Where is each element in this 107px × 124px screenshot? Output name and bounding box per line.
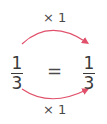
bottom-arrow [22,89,86,99]
equals-sign: = [47,60,62,81]
left-numerator: 1 [12,55,23,72]
top-multiply-label: × 1 [43,10,66,25]
right-denominator: 3 [84,75,95,92]
top-arrow [22,30,86,44]
right-fraction: 1 3 [83,55,95,92]
left-fraction: 1 3 [11,55,23,92]
bottom-multiply-label: × 1 [43,102,66,117]
left-denominator: 3 [12,75,23,92]
right-numerator: 1 [84,55,95,72]
